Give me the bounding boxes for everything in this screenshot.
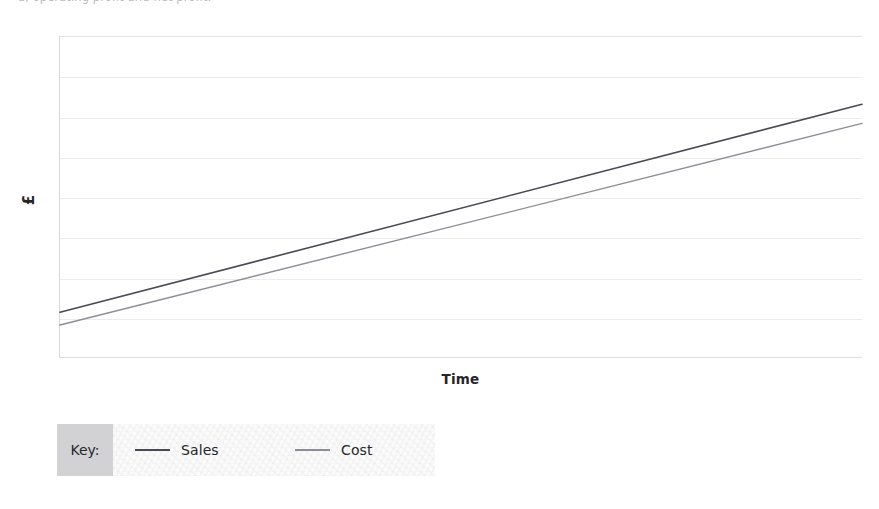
- legend-swatch-sales-icon: [135, 449, 170, 451]
- series-line-sales: [60, 104, 862, 312]
- y-axis-title: £: [14, 178, 44, 222]
- legend-key-label: Key:: [57, 424, 113, 476]
- line-chart-figure: £ Time Key: Sales Cost: [0, 0, 879, 509]
- series-layer: [60, 37, 862, 357]
- chart-legend: Key: Sales Cost: [57, 424, 435, 476]
- legend-item-sales[interactable]: Sales: [135, 424, 219, 476]
- y-axis-title-text: £: [20, 195, 38, 205]
- legend-swatch-cost-icon: [295, 449, 330, 451]
- legend-label-sales: Sales: [181, 442, 219, 458]
- series-line-cost: [60, 123, 862, 325]
- plot-area: [59, 36, 862, 358]
- legend-item-cost[interactable]: Cost: [295, 424, 373, 476]
- x-axis-title: Time: [59, 371, 862, 387]
- legend-label-cost: Cost: [341, 442, 373, 458]
